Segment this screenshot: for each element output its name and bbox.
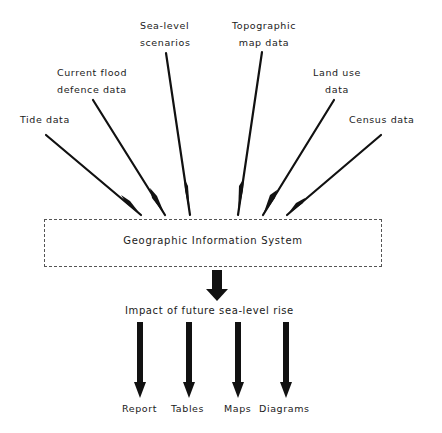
input-label-topographic: Topographic map data xyxy=(228,17,300,51)
gis-label: Geographic Information System xyxy=(45,235,381,246)
input-label-flood-defence: Current flood defence data xyxy=(57,64,127,98)
output-arrows xyxy=(134,322,292,398)
output-label-report: Report xyxy=(122,400,157,417)
output-label-tables: Tables xyxy=(171,400,204,417)
output-label-maps: Maps xyxy=(224,400,251,417)
input-label-tide: Tide data xyxy=(20,111,70,128)
gis-box: Geographic Information System xyxy=(44,219,382,267)
output-label-diagrams: Diagrams xyxy=(259,400,310,417)
spear-heads xyxy=(121,178,305,215)
gis-down-arrow xyxy=(206,270,228,301)
input-label-land-use: Land use data xyxy=(310,64,364,98)
result-label: Impact of future sea-level rise xyxy=(125,302,294,319)
input-label-sea-level: Sea-level scenarios xyxy=(140,17,191,51)
input-label-census: Census data xyxy=(349,111,414,128)
